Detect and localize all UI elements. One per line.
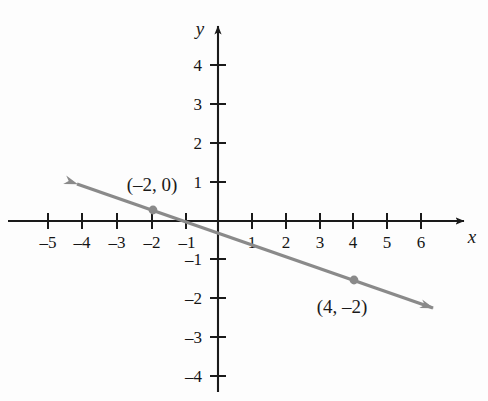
x-tick-labels: –5 –4 –3 –2 –1 1 2 3 4 5 6 xyxy=(39,233,426,252)
axis-lines xyxy=(8,26,464,392)
x-tick-label-4: 4 xyxy=(349,233,358,252)
point-b-label: (4, –2) xyxy=(317,296,368,318)
y-tick-label-3: 3 xyxy=(194,95,203,114)
x-tick-label--3: –3 xyxy=(108,233,126,252)
x-tick-label--5: –5 xyxy=(39,233,57,252)
graph-canvas: –5 –4 –3 –2 –1 1 2 3 4 5 6 4 3 2 1 –1 –2… xyxy=(0,0,488,401)
y-tick-label--1: –1 xyxy=(184,250,202,269)
x-tick-label-2: 2 xyxy=(282,233,291,252)
y-tick-label--2: –2 xyxy=(184,289,202,308)
data-point-a xyxy=(149,206,158,215)
y-tick-label-1: 1 xyxy=(194,173,203,192)
point-a-label: (–2, 0) xyxy=(127,174,178,196)
y-tick-label--3: –3 xyxy=(184,328,202,347)
x-tick-label-5: 5 xyxy=(383,233,392,252)
x-tick-label-6: 6 xyxy=(417,233,426,252)
y-tick-label-2: 2 xyxy=(194,134,203,153)
plotted-line xyxy=(77,184,433,308)
x-tick-label--4: –4 xyxy=(73,233,92,252)
data-point-b xyxy=(350,276,359,285)
x-axis-label: x xyxy=(467,226,477,247)
coordinate-plane-figure: –5 –4 –3 –2 –1 1 2 3 4 5 6 4 3 2 1 –1 –2… xyxy=(0,0,488,401)
x-tick-label--2: –2 xyxy=(143,233,161,252)
y-tick-label--4: –4 xyxy=(184,367,203,386)
y-tick-label-4: 4 xyxy=(194,56,203,75)
y-axis-label: y xyxy=(194,18,205,39)
x-tick-label-3: 3 xyxy=(316,233,325,252)
